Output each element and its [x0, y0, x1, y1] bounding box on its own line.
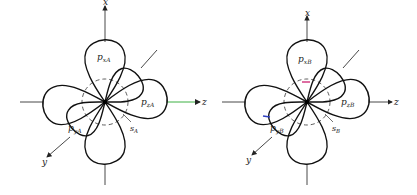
- diagram-atom-b: x z y pxB pzB pyB sB: [222, 8, 399, 185]
- nucleus: [305, 100, 309, 104]
- s-label: sB: [332, 124, 340, 134]
- y-axis-negative: [343, 50, 359, 68]
- x-axis-label: x: [305, 8, 310, 18]
- py-lobe-front: [263, 89, 317, 141]
- py-lobe-back: [95, 63, 149, 115]
- py-lobe-back: [297, 63, 351, 115]
- px-label: pxA: [97, 52, 111, 63]
- s-label: sA: [130, 124, 138, 134]
- diagram-atom-a: x z y pxA pzA pyA sA: [20, 0, 207, 185]
- px-lobe-top: [85, 40, 125, 102]
- py-lobe-front: [61, 89, 115, 141]
- px-lobe-top: [287, 40, 327, 102]
- y-axis: [252, 137, 272, 155]
- px-label: pxB: [298, 54, 312, 65]
- px-lobe-bottom: [85, 102, 125, 164]
- z-axis-label: z: [393, 97, 399, 107]
- x-axis-label: x: [103, 0, 108, 7]
- py-label: pyB: [270, 123, 284, 135]
- py-label: pyA: [68, 123, 82, 135]
- s-label-leader: [123, 114, 131, 122]
- pz-label: pzB: [341, 97, 355, 108]
- y-axis-label: y: [245, 155, 252, 165]
- orbital-diagram: x z y pxA pzA pyA sA x z y pxB: [0, 0, 417, 195]
- py-color-mark: [263, 116, 270, 117]
- pz-label: pzA: [141, 97, 155, 108]
- y-axis-negative: [141, 50, 157, 68]
- px-lobe-bottom: [287, 102, 327, 164]
- s-label-leader: [325, 114, 333, 122]
- nucleus: [103, 100, 107, 104]
- z-axis-label: z: [201, 97, 207, 107]
- y-axis-label: y: [41, 157, 48, 167]
- y-axis: [47, 137, 70, 157]
